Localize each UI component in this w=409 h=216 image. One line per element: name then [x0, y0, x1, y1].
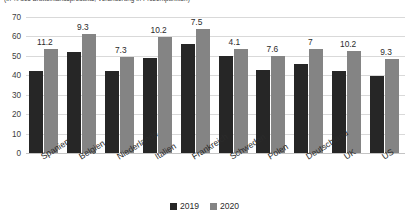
y-axis-tick-label: 60 — [12, 32, 21, 41]
legend-label: 2020 — [220, 201, 239, 211]
bar-2019 — [294, 64, 308, 153]
bar-value-label: 7.3 — [103, 45, 139, 55]
bar-value-label: 11.2 — [27, 37, 63, 47]
bar-2020 — [385, 59, 399, 153]
bar-group: 9.3 — [367, 17, 405, 153]
x-axis: SpanienBelgienNiederlandeItalienFrankrei… — [26, 153, 405, 199]
y-axis-tick-label: 40 — [12, 71, 21, 80]
bar-value-label: 10.2 — [141, 25, 177, 35]
bar-group: 7 — [291, 17, 329, 153]
bar-2020 — [44, 49, 58, 153]
bar-2019 — [67, 52, 81, 153]
bar-2019 — [370, 76, 384, 153]
legend-swatch-icon — [210, 203, 217, 210]
y-axis-tick-label: 30 — [12, 90, 21, 99]
bar-2020 — [82, 34, 96, 153]
bar-2020 — [120, 57, 134, 153]
chart-title: (in % des Bruttoinlandsprodukts, Verände… — [4, 0, 404, 4]
y-axis: 010203040506070 — [0, 17, 24, 153]
legend-item[interactable]: 2019 — [170, 201, 199, 211]
bar-value-label: 7.6 — [254, 44, 290, 54]
bar-2020 — [196, 29, 210, 153]
bar-2019 — [181, 44, 195, 153]
y-axis-tick-label: 0 — [16, 149, 21, 158]
legend-swatch-icon — [170, 203, 177, 210]
legend-label: 2019 — [180, 201, 199, 211]
bar-value-label: 7.5 — [179, 17, 215, 27]
bar-2020 — [347, 51, 361, 153]
bar-group: 7.5 — [178, 17, 216, 153]
bar-value-label: 10.2 — [330, 39, 366, 49]
bar-value-label: 9.3 — [65, 22, 101, 32]
bar-value-label: 4.1 — [216, 37, 252, 47]
bar-group: 7.3 — [102, 17, 140, 153]
bar-2020 — [158, 37, 172, 153]
bar-2019 — [105, 71, 119, 153]
bar-group: 9.3 — [64, 17, 102, 153]
bar-2020 — [309, 49, 323, 153]
y-axis-tick-label: 20 — [12, 110, 21, 119]
bar-2019 — [29, 71, 43, 153]
bar-group: 11.2 — [26, 17, 64, 153]
y-axis-tick-label: 50 — [12, 51, 21, 60]
bar-2020 — [234, 49, 248, 153]
legend-item[interactable]: 2020 — [210, 201, 239, 211]
y-axis-tick-label: 70 — [12, 13, 21, 22]
bar-value-label: 9.3 — [368, 47, 404, 57]
bar-value-label: 7 — [292, 37, 328, 47]
bar-2020 — [271, 56, 285, 153]
bar-chart: (in % des Bruttoinlandsprodukts, Verände… — [0, 0, 409, 216]
chart-legend: 20192020 — [0, 201, 409, 211]
y-axis-tick-label: 10 — [12, 129, 21, 138]
